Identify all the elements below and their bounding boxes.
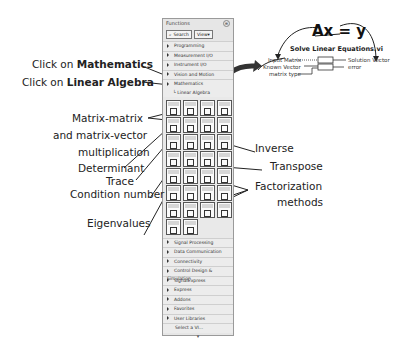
expand-arrow-icon (167, 82, 169, 86)
vi-output-error: error (348, 64, 361, 70)
schur-icon[interactable] (200, 185, 215, 201)
expand-arrow-icon (167, 72, 169, 76)
expand-arrow-icon (167, 316, 169, 320)
general-eigen-icon[interactable] (183, 202, 198, 218)
functions-palette: Functions ⊕ ⌕ Search View▾ Programming M… (162, 18, 234, 336)
vector-norm-icon[interactable] (183, 134, 198, 150)
search-icon: ⌕ (169, 32, 172, 37)
rank-icon[interactable] (217, 134, 232, 150)
expand-arrow-icon (167, 240, 169, 244)
expand-arrow-icon (167, 250, 169, 254)
palette-item-mathematics[interactable]: Mathematics (163, 79, 233, 89)
matrix-multiply-icon[interactable] (183, 100, 198, 116)
palette-item-addons[interactable]: Addons (163, 295, 233, 305)
expand-arrow-icon (167, 297, 169, 301)
annotation-trace: Trace (106, 175, 134, 187)
pivot-icon[interactable] (183, 219, 198, 235)
vi-title: Solve Linear Equations.vi (290, 45, 383, 53)
expand-arrow-icon (167, 307, 169, 311)
ab-product-icon[interactable] (166, 117, 181, 133)
annotation-click-linear-algebra: Click on Linear Algebra (22, 76, 154, 88)
annotation-click-mathematics: Click on Mathematics (32, 58, 153, 70)
annotation-eigenvalues: Eigenvalues (87, 217, 150, 229)
palette-item-programming[interactable]: Programming (163, 41, 233, 51)
palette-item-measurement-io[interactable]: Measurement I/O (163, 51, 233, 61)
solve-linear-equations-icon[interactable] (200, 100, 215, 116)
trace-icon[interactable] (183, 151, 198, 167)
annotation-condition-number: Condition number (70, 188, 164, 200)
palette-item-user-libraries[interactable]: User Libraries (163, 314, 233, 324)
expand-arrow-icon (167, 44, 169, 48)
palette-item-control-design[interactable]: Control Design & Simulation (163, 266, 233, 276)
dot-product-icon[interactable] (183, 117, 198, 133)
pseudoinverse-icon[interactable] (183, 168, 198, 184)
palette-toolbar: ⌕ Search View▾ (163, 30, 233, 41)
eigenvalues-icon[interactable] (166, 202, 181, 218)
palette-subitem-linear-algebra[interactable]: └ Linear Algebra (163, 89, 233, 97)
annotation-transpose: Transpose (270, 160, 323, 172)
palette-item-express[interactable]: Express (163, 285, 233, 295)
scroll-down-icon[interactable]: ▾ (163, 333, 233, 339)
pin-icon[interactable]: ⊕ (223, 20, 230, 27)
matrix-power-icon[interactable] (200, 202, 215, 218)
expand-arrow-icon (167, 63, 169, 67)
linear-algebra-icon-grid (163, 97, 233, 238)
palette-item-favorites[interactable]: Favorites (163, 304, 233, 314)
complex-matrix-icon[interactable] (166, 219, 181, 235)
palette-item-instrument-io[interactable]: Instrument I/O (163, 60, 233, 70)
search-button[interactable]: ⌕ Search (166, 30, 192, 39)
transpose-icon[interactable] (217, 151, 232, 167)
vi-input-matrix: Input Matrix (268, 57, 301, 63)
annotation-factorization-line1: Factorization (255, 180, 322, 192)
palette-item-vision-motion[interactable]: Vision and Motion (163, 70, 233, 80)
inverse-matrix-icon[interactable] (217, 117, 232, 133)
annotation-matrix-line1: Matrix-matrix (72, 112, 143, 124)
ax-b-icon[interactable] (166, 100, 181, 116)
palette-item-select-vi[interactable]: Select a VI... (163, 323, 233, 333)
qr-factorization-icon[interactable] (217, 168, 232, 184)
palette-item-signal-processing[interactable]: Signal Processing (163, 238, 233, 248)
expand-arrow-icon (167, 269, 169, 273)
palette-title: Functions (166, 20, 190, 26)
outer-product-icon[interactable] (200, 117, 215, 133)
test-matrix-icon[interactable] (166, 168, 181, 184)
annotation-matrix-line3: multiplication (78, 146, 150, 158)
expand-arrow-icon (167, 288, 169, 292)
expand-arrow-icon (167, 259, 169, 263)
palette-item-signalexpress[interactable]: SignalExpress (163, 276, 233, 286)
matrix-vector-icon[interactable] (166, 134, 181, 150)
annotation-factorization-line2: methods (277, 196, 323, 208)
determinant-icon[interactable] (166, 151, 181, 167)
vi-input-known-vector: Known Vector (263, 64, 301, 70)
annotation-inverse: Inverse (255, 142, 294, 154)
view-button[interactable]: View▾ (194, 30, 213, 39)
svd-icon[interactable] (183, 185, 198, 201)
matrix-norm-icon[interactable] (200, 134, 215, 150)
expand-arrow-icon (167, 53, 169, 57)
hessenberg-icon[interactable] (217, 185, 232, 201)
palette-title-bar: Functions ⊕ (163, 19, 233, 30)
palette-item-data-communication[interactable]: Data Communication (163, 247, 233, 257)
palette-item-connectivity[interactable]: Connectivity (163, 257, 233, 267)
vi-input-matrix-type: matrix type (269, 71, 301, 77)
lu-factorization-icon[interactable] (200, 168, 215, 184)
linear-algebra-icon[interactable] (217, 100, 232, 116)
matrix-exponential-icon[interactable] (217, 202, 232, 218)
vi-output-solution-vector: Solution Vector (348, 57, 390, 63)
cholesky-icon[interactable] (166, 185, 181, 201)
equation-ax-y: Ax = y (312, 22, 366, 40)
annotation-matrix-line2: and matrix-vector (53, 129, 147, 141)
expand-arrow-icon (167, 278, 169, 282)
condition-number-icon[interactable] (200, 151, 215, 167)
annotation-determinant: Determinant (78, 162, 144, 174)
